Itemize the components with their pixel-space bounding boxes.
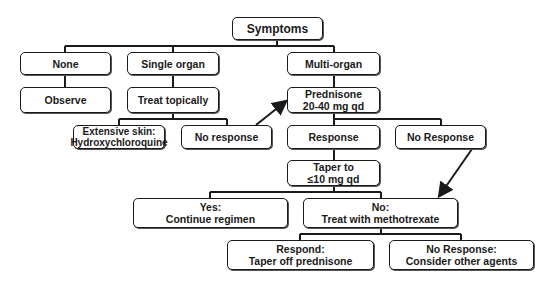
node-single-organ: Single organ <box>127 52 219 75</box>
node-label: Respond: <box>276 243 324 255</box>
node-no-methotrexate: No: Treat with methotrexate <box>303 198 458 228</box>
node-multi-organ: Multi-organ <box>287 52 380 75</box>
node-treat-topically: Treat topically <box>127 87 219 113</box>
node-label: No: <box>372 201 390 213</box>
node-label: Treat topically <box>138 94 209 106</box>
node-yes-continue: Yes: Continue regimen <box>133 198 288 228</box>
node-no-response-other: No Response: Consider other agents <box>389 240 534 270</box>
node-label: Extensive skin: <box>83 126 156 137</box>
node-prednisone: Prednisone 20-40 mg qd <box>287 87 380 113</box>
node-label: Prednisone <box>305 88 362 100</box>
node-label: Treat with methotrexate <box>322 213 440 225</box>
node-label: Hydroxychloroquine <box>70 137 167 148</box>
node-respond-taper-off: Respond: Taper off prednisone <box>227 240 374 270</box>
node-taper: Taper to ≤10 mg qd <box>287 160 380 186</box>
node-observe: Observe <box>20 87 111 113</box>
node-no-response-prednisone: No Response <box>395 125 486 149</box>
node-none: None <box>20 52 111 75</box>
node-label: No Response <box>407 131 474 143</box>
node-label: Continue regimen <box>166 213 255 225</box>
node-label: Yes: <box>200 201 222 213</box>
node-label: Taper to <box>313 161 354 173</box>
node-symptoms: Symptoms <box>232 17 323 40</box>
node-label: 20-40 mg qd <box>303 100 364 112</box>
node-label: Response <box>308 131 358 143</box>
node-label: Taper off prednisone <box>249 255 353 267</box>
node-response: Response <box>287 125 380 149</box>
node-extensive-skin: Extensive skin: Hydroxychloroquine <box>73 125 165 149</box>
node-label: No response <box>195 131 259 143</box>
node-no-response-topical: No response <box>181 125 272 149</box>
node-label: Symptoms <box>247 23 308 35</box>
node-label: Observe <box>44 94 86 106</box>
node-label: Single organ <box>141 58 205 70</box>
node-label: Consider other agents <box>406 255 517 267</box>
node-label: Multi-organ <box>305 58 362 70</box>
node-label: No Response: <box>426 243 497 255</box>
node-label: ≤10 mg qd <box>308 173 360 185</box>
node-label: None <box>52 58 78 70</box>
